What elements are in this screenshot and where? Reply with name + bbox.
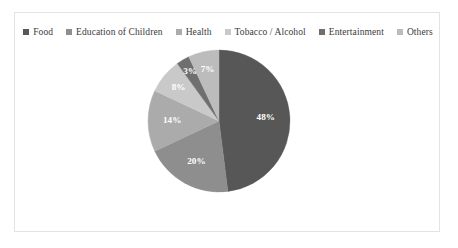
pie-slice-label: 20% — [187, 156, 205, 166]
chart-frame: Food Education of Children Health Tobacc… — [14, 12, 440, 232]
pie-slice-label: 3% — [183, 66, 197, 76]
pie-chart: 48%20%14%8%3%7% — [147, 49, 291, 193]
pie-slice-label: 48% — [257, 112, 275, 122]
pie-slice[interactable] — [219, 50, 290, 191]
pie-chart-area: 48%20%14%8%3%7% — [15, 13, 441, 233]
pie-slice-label: 14% — [163, 115, 181, 125]
pie-slice-label: 7% — [201, 64, 215, 74]
pie-slice-label: 8% — [172, 82, 186, 92]
